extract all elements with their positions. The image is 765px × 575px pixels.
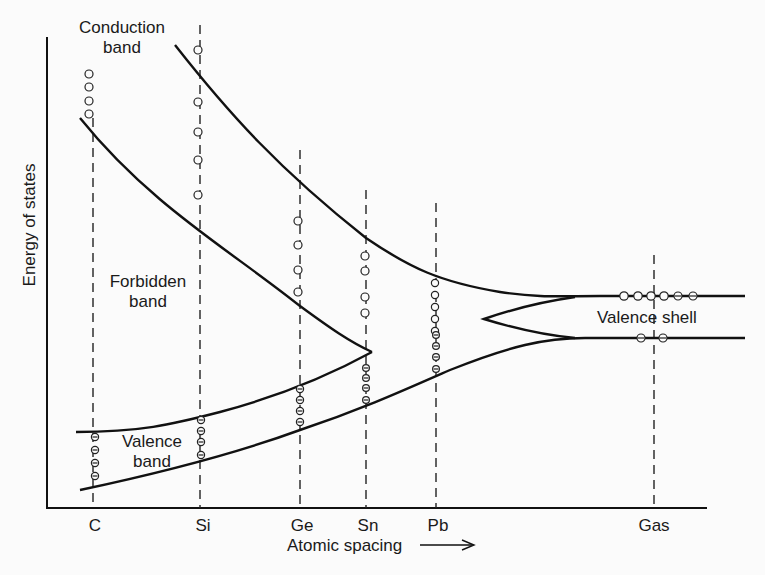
x-tick-c: C (89, 516, 101, 536)
c-states (85, 70, 93, 118)
pb-states (431, 279, 438, 334)
ge-states (294, 217, 302, 296)
x-tick-ge: Ge (291, 516, 314, 536)
valence-band-label-line1: Valence (112, 432, 192, 452)
x-tick-gas: Gas (638, 516, 669, 536)
valence-shell-inner-cusp (484, 297, 575, 338)
forbidden-band-label-line1: Forbidden (103, 272, 193, 292)
y-axis-label: Energy of states (20, 164, 40, 287)
x-tick-si: Si (195, 516, 210, 536)
sn-electrons (363, 365, 370, 404)
forbidden-band-label-line2: band (103, 292, 193, 312)
x-tick-sn: Sn (358, 516, 379, 536)
forbidden-band-label: Forbidden band (103, 272, 193, 312)
sn-states (361, 252, 369, 317)
conduction-band-label: Conduction band (72, 18, 172, 58)
valence-shell-label: Valence shell (597, 308, 697, 328)
pb-electrons (433, 332, 440, 373)
energy-band-diagram: Conduction band Forbidden band Valence b… (0, 0, 765, 575)
si-electrons (197, 416, 204, 458)
x-axis-label: Atomic spacing (287, 536, 402, 556)
x-tick-pb: Pb (428, 516, 449, 536)
valence-band-label-line2: band (112, 452, 192, 472)
conduction-band-label-line2: band (72, 38, 172, 58)
conduction-band-label-line1: Conduction (72, 18, 172, 38)
conduction-band-upper-curve (175, 45, 745, 296)
forbidden-band-upper-boundary (80, 118, 372, 352)
valence-band-label: Valence band (112, 432, 192, 472)
